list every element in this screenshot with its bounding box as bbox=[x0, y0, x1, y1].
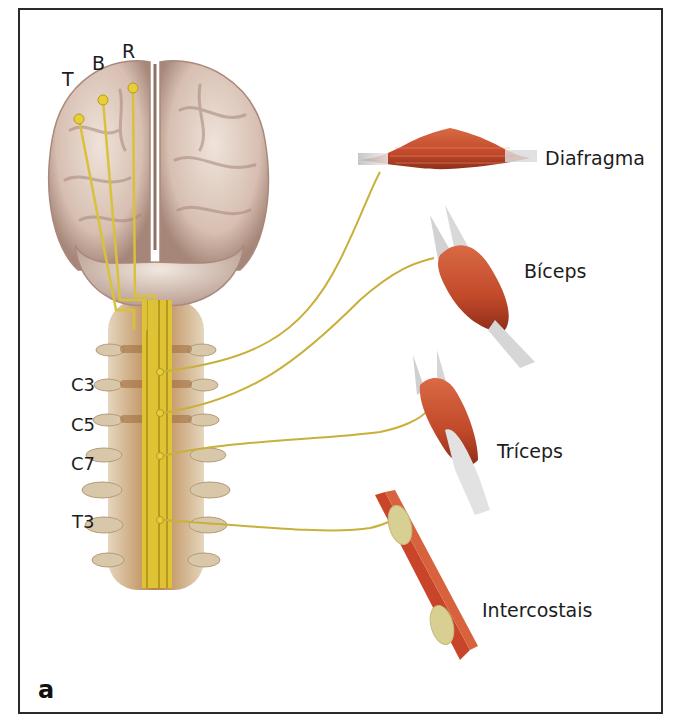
spinal-level-t3: T3 bbox=[72, 513, 94, 531]
cortex-label-t: T bbox=[62, 70, 74, 89]
muscle-label-biceps: Bíceps bbox=[524, 262, 586, 281]
panel-label: a bbox=[38, 676, 54, 704]
spinal-level-c7: C7 bbox=[71, 455, 95, 473]
diaphragm-muscle bbox=[358, 128, 537, 169]
biceps-muscle bbox=[430, 205, 535, 368]
brain bbox=[49, 61, 269, 306]
cortex-label-r: R bbox=[122, 42, 135, 61]
triceps-muscle bbox=[413, 350, 490, 515]
muscle-label-diafragma: Diafragma bbox=[545, 149, 645, 168]
muscle-label-triceps: Tríceps bbox=[497, 442, 563, 461]
intercostal-muscles bbox=[375, 490, 478, 660]
cortex-label-b: B bbox=[92, 54, 105, 73]
spinal-level-c5: C5 bbox=[71, 416, 95, 434]
spinal-level-c3: C3 bbox=[71, 376, 95, 394]
spinal-cord bbox=[142, 300, 172, 588]
muscle-label-intercostais: Intercostais bbox=[482, 601, 592, 620]
